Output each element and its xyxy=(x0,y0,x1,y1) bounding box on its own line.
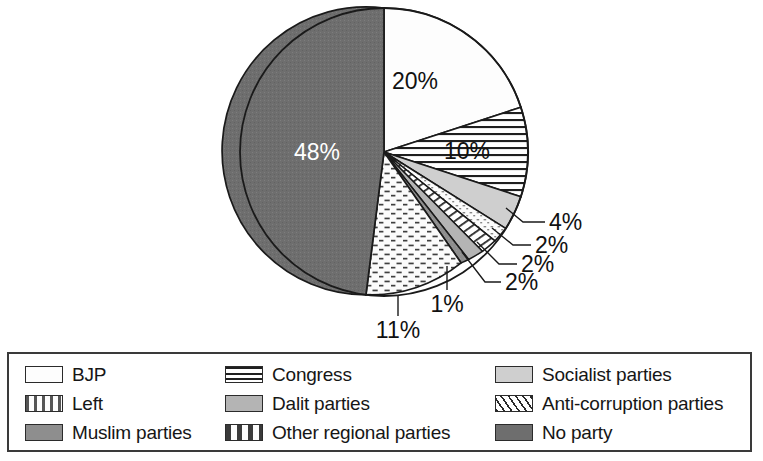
data-label-dalit: 2% xyxy=(505,269,538,295)
legend-swatch-anticorruption-icon xyxy=(495,395,533,412)
legend-item-bjp[interactable]: BJP xyxy=(25,360,225,389)
legend-item-muslim-parties[interactable]: Muslim parties xyxy=(25,418,225,447)
legend-label-bjp: BJP xyxy=(72,364,106,386)
legend-item-congress[interactable]: Congress xyxy=(225,360,495,389)
data-label-no-party: 48% xyxy=(294,139,340,165)
data-label-bjp: 20% xyxy=(392,68,438,94)
data-label-muslim: 1% xyxy=(430,291,463,317)
data-label-congress: 10% xyxy=(444,138,490,164)
legend-swatch-dalit-icon xyxy=(225,395,263,412)
legend-label-left: Left xyxy=(72,393,103,415)
legend-item-anti-corruption-parties[interactable]: Anti-corruption parties xyxy=(495,389,735,418)
legend-swatch-no-party-icon xyxy=(495,424,533,441)
legend-swatch-muslim-icon xyxy=(25,424,63,441)
legend-label-other-regional-parties: Other regional parties xyxy=(272,422,450,444)
chart-legend: BJP Congress Socialist parties Left Dali… xyxy=(7,352,752,452)
legend-swatch-congress-icon xyxy=(225,366,263,383)
legend-label-no-party: No party xyxy=(542,422,612,444)
pie-chart: 20% 10% 48% 4% 2% 2% 2% 1% 11% xyxy=(0,0,763,340)
legend-swatch-socialist-icon xyxy=(495,366,533,383)
legend-item-socialist-parties[interactable]: Socialist parties xyxy=(495,360,735,389)
legend-swatch-other-regional-icon xyxy=(225,424,263,441)
legend-item-dalit-parties[interactable]: Dalit parties xyxy=(225,389,495,418)
legend-label-dalit-parties: Dalit parties xyxy=(272,393,370,415)
legend-label-muslim-parties: Muslim parties xyxy=(72,422,192,444)
legend-item-other-regional-parties[interactable]: Other regional parties xyxy=(225,418,495,447)
legend-item-no-party[interactable]: No party xyxy=(495,418,735,447)
legend-label-congress: Congress xyxy=(272,364,352,386)
legend-label-anti-corruption-parties: Anti-corruption parties xyxy=(542,393,723,415)
legend-item-left[interactable]: Left xyxy=(25,389,225,418)
legend-swatch-bjp-icon xyxy=(25,366,63,383)
pie-chart-area: 20% 10% 48% 4% 2% 2% 2% 1% 11% xyxy=(0,0,763,340)
legend-label-socialist-parties: Socialist parties xyxy=(542,364,672,386)
legend-swatch-left-icon xyxy=(25,395,63,412)
data-label-other-regional: 11% xyxy=(376,317,420,340)
